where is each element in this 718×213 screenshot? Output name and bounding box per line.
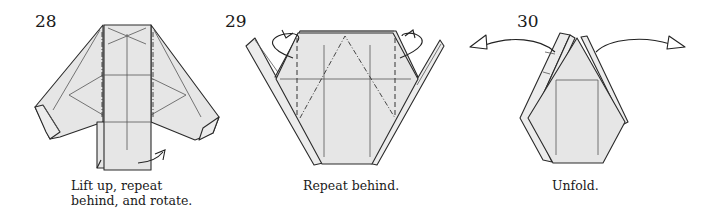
caption-line: Repeat behind.	[303, 178, 399, 193]
caption-line: Lift up, repeat	[71, 178, 192, 193]
step-28: 28	[0, 0, 240, 213]
step-30: 30 Unfold.	[460, 0, 718, 213]
left-wing	[35, 25, 103, 139]
right-wing	[151, 25, 219, 140]
main-kite	[528, 38, 625, 163]
unfold-arrow-left-icon	[470, 35, 555, 52]
unfold-arrow-right-icon	[596, 36, 685, 52]
step-30-caption: Unfold.	[552, 178, 599, 193]
step-28-caption: Lift up, repeat behind, and rotate.	[71, 178, 192, 208]
step-29: 29 Repeat behind.	[230, 0, 470, 213]
caption-line: Unfold.	[552, 178, 599, 193]
center-strip	[102, 25, 153, 170]
step-29-caption: Repeat behind.	[303, 178, 399, 193]
caption-line: behind, and rotate.	[71, 193, 192, 208]
